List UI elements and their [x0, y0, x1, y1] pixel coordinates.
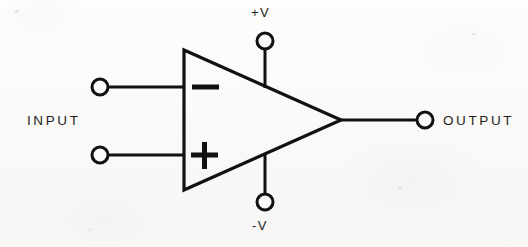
label-negative-supply: -V	[252, 219, 268, 232]
label-positive-supply: +V	[251, 6, 270, 19]
noninverting-plus-icon	[191, 142, 218, 169]
terminal-negative-supply[interactable]	[257, 194, 273, 210]
scan-speck	[87, 229, 91, 231]
label-output: OUTPUT	[443, 114, 514, 128]
label-input: INPUT	[27, 114, 81, 128]
terminal-noninverting-input[interactable]	[92, 147, 108, 163]
scan-speck	[398, 186, 402, 189]
scan-speck	[471, 33, 477, 35]
opamp-triangle-body	[184, 50, 341, 190]
terminal-inverting-input[interactable]	[92, 79, 108, 95]
opamp-diagram: INPUT OUTPUT +V -V	[0, 0, 528, 247]
scan-speck	[14, 10, 19, 13]
terminal-positive-supply[interactable]	[257, 33, 273, 49]
terminal-output[interactable]	[417, 112, 433, 128]
